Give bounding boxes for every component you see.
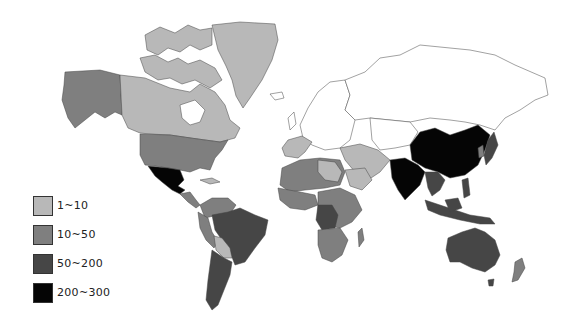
legend-item: 200~300 (33, 278, 110, 307)
legend-item: 10~50 (33, 220, 110, 249)
region-tasmania (488, 279, 494, 286)
legend-swatch (33, 196, 53, 216)
region-russia (345, 45, 548, 130)
region-se-asia (425, 172, 445, 196)
legend-swatch (33, 225, 53, 245)
legend: 1~10 10~50 50~200 200~300 (33, 191, 110, 307)
legend-label: 10~50 (57, 228, 96, 241)
legend-label: 50~200 (57, 257, 103, 270)
legend-swatch (33, 254, 53, 274)
legend-swatch (33, 283, 53, 303)
region-france-spain (282, 136, 312, 158)
region-philippines (462, 178, 470, 198)
legend-label: 1~10 (57, 199, 88, 212)
region-australia (446, 228, 500, 272)
legend-item: 50~200 (33, 249, 110, 278)
region-argentina (206, 250, 232, 310)
region-southern-africa (318, 228, 348, 262)
region-caribbean (200, 178, 220, 184)
legend-label: 200~300 (57, 286, 110, 299)
region-west-africa (278, 188, 318, 210)
region-canada-arctic (145, 25, 212, 55)
region-mexico (148, 166, 185, 194)
region-alaska (62, 70, 122, 128)
region-new-zealand (512, 258, 525, 282)
region-canada (120, 75, 240, 142)
region-madagascar (358, 228, 364, 247)
region-uk (288, 112, 296, 130)
region-greenland (212, 22, 278, 108)
legend-item: 1~10 (33, 191, 110, 220)
region-iceland (270, 92, 284, 100)
region-central-america (180, 192, 200, 208)
